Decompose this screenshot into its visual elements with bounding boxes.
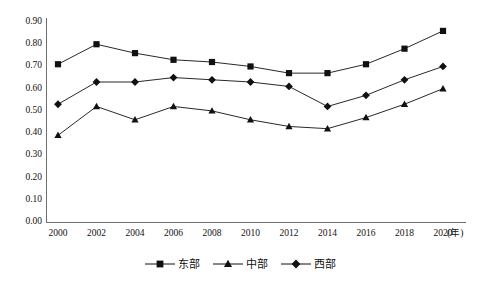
data-point-marker [324,103,332,111]
data-point-marker [362,91,370,99]
data-point-marker [439,85,446,91]
data-point-marker [285,83,293,91]
legend-item-西部[interactable]: 西部 [281,258,336,270]
series-plot-area [0,0,480,297]
data-point-marker [439,63,447,71]
legend-label: 东部 [178,258,200,270]
data-point-marker [131,78,139,86]
data-point-marker [54,100,62,108]
series-中部 [54,85,446,138]
data-point-marker [286,70,292,76]
legend-label: 中部 [246,258,268,270]
legend-marker-diamond-icon [281,258,311,270]
data-point-marker [324,70,330,76]
legend-item-中部[interactable]: 中部 [213,258,268,270]
data-point-marker [401,100,408,106]
data-point-marker [170,103,177,109]
data-point-marker [93,103,100,109]
data-point-marker [93,78,101,86]
series-东部 [55,28,446,76]
chart-container: 0.000.100.200.300.400.500.600.700.800.90… [0,0,480,297]
data-point-marker [363,61,369,67]
legend-marker-square-icon [145,258,175,270]
data-point-marker [170,74,178,82]
legend-label: 西部 [314,258,336,270]
series-西部 [54,63,447,111]
data-point-marker [208,76,216,84]
data-point-marker [247,78,255,86]
data-point-marker [209,59,215,65]
data-point-marker [440,28,446,34]
data-point-marker [132,50,138,56]
series-line [58,89,443,136]
legend-item-东部[interactable]: 东部 [145,258,200,270]
data-point-marker [247,63,253,69]
legend-marker-triangle-icon [213,258,243,270]
data-point-marker [401,46,407,52]
chart-legend: 东部中部西部 [0,258,480,270]
series-line [58,66,443,106]
data-point-marker [170,57,176,63]
data-point-marker [54,132,61,138]
data-point-marker [93,41,99,47]
data-point-marker [55,61,61,67]
data-point-marker [401,76,409,84]
